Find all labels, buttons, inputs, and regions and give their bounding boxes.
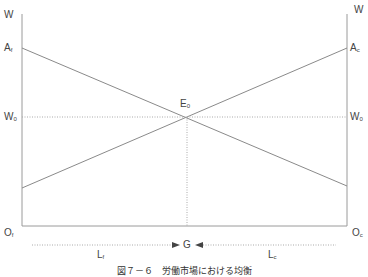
figure-caption: 図７－６ 労働市場における均衡 xyxy=(0,264,368,277)
w0-left-label: W0 xyxy=(4,112,17,122)
right-w-label: W xyxy=(354,5,363,15)
g-label: G xyxy=(183,240,191,250)
arrow-left-icon xyxy=(195,242,203,248)
af-label: Af xyxy=(4,43,12,53)
oc-label: Oc xyxy=(352,228,363,238)
ac-label: Ac xyxy=(350,43,360,53)
lc-label: Lc xyxy=(268,250,277,260)
left-w-label: W xyxy=(4,10,13,20)
of-label: Of xyxy=(4,228,13,238)
e0-label: E0 xyxy=(180,99,190,109)
w0-right-label: W0 xyxy=(350,112,363,122)
lf-label: Lf xyxy=(97,250,104,260)
arrow-right-icon xyxy=(172,242,180,248)
